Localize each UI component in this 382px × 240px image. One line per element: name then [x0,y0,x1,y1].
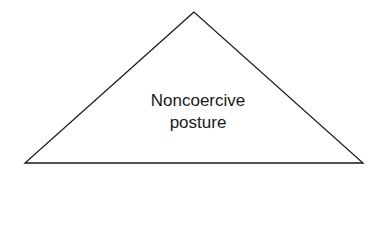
triangle-label: Noncoercive posture [120,90,276,134]
label-line-1: Noncoercive [120,90,276,112]
label-line-2: posture [120,112,276,134]
